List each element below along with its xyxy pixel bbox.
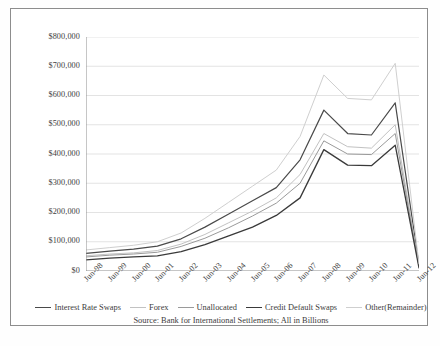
legend-item: Unallocated xyxy=(178,303,237,313)
y-axis-tick-label: $600,000 xyxy=(16,91,80,99)
y-axis-tick-label: $0 xyxy=(16,267,80,275)
legend-item: Interest Rate Swaps xyxy=(35,303,121,313)
legend-line-swatch xyxy=(35,307,51,308)
y-axis-labels: $800,000$700,000$600,000$500,000$400,000… xyxy=(11,9,80,309)
y-axis-tick-label: $500,000 xyxy=(16,120,80,128)
figure-root: $800,000$700,000$600,000$500,000$400,000… xyxy=(0,0,440,346)
plot-area xyxy=(86,37,419,271)
legend-label: Other(Remainder) xyxy=(365,303,426,313)
y-axis-tick-label: $800,000 xyxy=(16,33,80,41)
y-axis-tick-label: $400,000 xyxy=(16,150,80,158)
legend-label: Forex xyxy=(149,303,169,313)
legend-item: Other(Remainder) xyxy=(346,303,426,313)
legend-line-swatch xyxy=(346,307,362,308)
legend-label: Interest Rate Swaps xyxy=(54,303,121,313)
series-line xyxy=(86,103,419,265)
gridlines xyxy=(86,37,419,271)
series-lines xyxy=(86,63,419,267)
series-line xyxy=(86,145,419,268)
legend-item: Credit Default Swaps xyxy=(246,303,337,313)
y-axis-tick-label: $300,000 xyxy=(16,179,80,187)
plot-svg xyxy=(86,37,419,271)
legend-line-swatch xyxy=(178,307,194,308)
chart-frame: $800,000$700,000$600,000$500,000$400,000… xyxy=(10,8,428,326)
y-axis-tick-label: $200,000 xyxy=(16,208,80,216)
legend-item: Forex xyxy=(130,303,169,313)
legend-label: Unallocated xyxy=(197,303,237,313)
chart-legend: Interest Rate SwapsForexUnallocatedCredi… xyxy=(27,301,435,314)
legend-line-swatch xyxy=(246,307,262,308)
y-axis-tick-label: $100,000 xyxy=(16,237,80,245)
legend-label: Credit Default Swaps xyxy=(265,303,337,313)
y-axis-tick-label: $700,000 xyxy=(16,62,80,70)
source-note: Source: Bank for International Settlemen… xyxy=(27,316,435,325)
series-line xyxy=(86,63,419,264)
legend-line-swatch xyxy=(130,307,146,308)
